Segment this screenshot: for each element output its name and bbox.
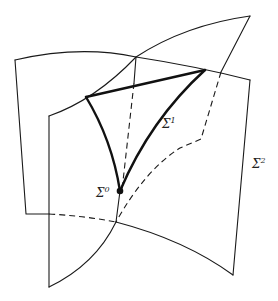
sigma0-point [117,188,124,195]
sigma1-left-edge [86,97,120,191]
back-sheet-right-edge [233,80,250,275]
back-sheet-top-edge [15,52,250,80]
front-sheet-hidden-right [116,72,221,222]
label-sigma1: Σ1 [161,116,176,131]
front-sheet-right-edge [221,16,250,72]
intersection-line-visible [134,57,136,83]
label-sigma0: Σ0 [95,185,110,200]
sigma0-to-junction-line [116,191,120,222]
stratification-diagram: Σ0 Σ1 Σ2 [0,0,278,301]
front-sheet [49,16,250,287]
front-sheet-bottom-edge [49,222,116,287]
label-sigma2: Σ2 [251,156,266,171]
front-sheet-top-edge [49,16,250,116]
back-sheet-hidden-bottom [49,214,116,222]
back-sheet-left-edge [15,60,49,214]
back-sheet-bottom-edge [116,222,233,275]
sigma1-top-edge [86,70,205,97]
